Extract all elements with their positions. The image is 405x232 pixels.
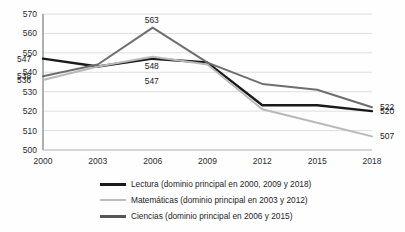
svg-text:530: 530 — [23, 87, 37, 97]
svg-text:520: 520 — [23, 106, 37, 116]
legend-item-ciencias[interactable]: Ciencias (dominio principal en 2006 y 20… — [100, 208, 400, 224]
svg-text:536: 536 — [17, 75, 31, 85]
svg-text:547: 547 — [145, 76, 159, 86]
svg-text:507: 507 — [380, 131, 394, 141]
chart-legend: Lectura (dominio principal en 2000, 2009… — [100, 176, 400, 224]
svg-text:2003: 2003 — [88, 156, 107, 166]
svg-text:2012: 2012 — [253, 156, 272, 166]
legend-label-ciencias: Ciencias (dominio principal en 2006 y 20… — [131, 211, 292, 221]
line-chart: 570560550540530520510500 200020032006200… — [0, 0, 405, 232]
axis-lines — [43, 14, 372, 150]
legend-line-swatch-lectura — [100, 183, 126, 186]
svg-text:2018: 2018 — [363, 156, 382, 166]
svg-text:547: 547 — [17, 54, 31, 64]
svg-text:548: 548 — [145, 61, 159, 71]
gridlines — [43, 14, 372, 150]
svg-text:2000: 2000 — [34, 156, 53, 166]
legend-line-swatch-matematicas — [100, 199, 126, 201]
series-lines — [43, 28, 372, 137]
svg-text:570: 570 — [23, 9, 37, 19]
legend-label-matematicas: Matemáticas (dominio principal en 2003 y… — [131, 195, 308, 205]
svg-text:2006: 2006 — [143, 156, 162, 166]
legend-label-lectura: Lectura (dominio principal en 2000, 2009… — [131, 179, 311, 189]
svg-text:510: 510 — [23, 126, 37, 136]
svg-text:560: 560 — [23, 28, 37, 38]
legend-line-swatch-ciencias — [100, 215, 126, 218]
legend-item-matematicas[interactable]: Matemáticas (dominio principal en 2003 y… — [100, 192, 400, 208]
svg-text:2015: 2015 — [308, 156, 327, 166]
svg-text:2009: 2009 — [198, 156, 217, 166]
svg-text:500: 500 — [23, 145, 37, 155]
x-axis-tick-labels: 2000200320062009201220152018 — [34, 156, 382, 166]
svg-text:563: 563 — [145, 15, 159, 25]
svg-text:520: 520 — [380, 106, 394, 116]
legend-item-lectura[interactable]: Lectura (dominio principal en 2000, 2009… — [100, 176, 400, 192]
